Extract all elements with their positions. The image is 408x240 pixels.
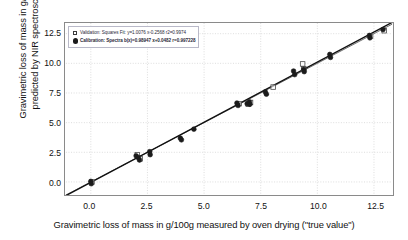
x-tick-label: 7.5: [241, 201, 281, 211]
legend-item-calibration: Calibration: Spectra b(x)=0.98947 x+0.04…: [71, 37, 195, 44]
y-axis-label-line-1: Gravimetric loss of mass in g/100 g: [17, 0, 29, 118]
plot-area: Validation: Squares Fit: y=1.0076 x-0.25…: [64, 22, 394, 196]
x-tick-label: 10.0: [298, 201, 338, 211]
open-square-icon: [71, 30, 80, 37]
x-tick-label: 5.0: [184, 201, 224, 211]
x-axis-label: Gravimetric loss of mass in g/100g measu…: [0, 219, 408, 230]
legend-item-calibration-label: Calibration: Spectra b(x)=0.98947 x+0.04…: [80, 38, 195, 44]
y-tick-label: 0.0: [35, 178, 61, 188]
data-points: [65, 23, 393, 195]
chart-legend: Validation: Squares Fit: y=1.0076 x-0.25…: [68, 26, 199, 48]
x-tick-label: 2.5: [127, 201, 167, 211]
filled-circle-icon: [71, 37, 80, 44]
y-axis-tick-labels: 0.02.55.07.510.012.5: [32, 22, 61, 196]
y-tick-label: 2.5: [35, 148, 61, 158]
y-tick-label: 12.5: [35, 28, 61, 38]
legend-item-validation-label: Validation: Squares Fit: y=1.0076 x-0.25…: [80, 30, 186, 36]
y-tick-label: 10.0: [35, 58, 61, 68]
x-tick-label: 12.5: [356, 201, 396, 211]
x-tick-label: 0.0: [69, 201, 109, 211]
scatter-chart-figure: Gravimetric loss of mass in g/100 g pred…: [0, 0, 408, 240]
legend-item-validation: Validation: Squares Fit: y=1.0076 x-0.25…: [71, 30, 195, 37]
x-axis-tick-labels: 0.02.55.07.510.012.5: [64, 201, 394, 215]
y-tick-label: 7.5: [35, 88, 61, 98]
y-tick-label: 5.0: [35, 118, 61, 128]
